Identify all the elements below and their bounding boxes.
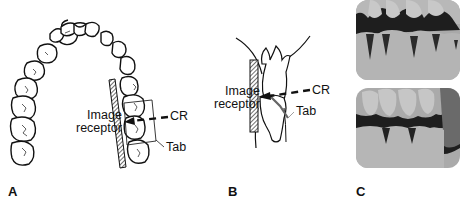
panel-a: Image receptor CR Tab A bbox=[0, 0, 200, 206]
cr-label-a: CR bbox=[170, 110, 188, 123]
panel-b: Image receptor CR Tab B bbox=[190, 0, 350, 206]
bitewing-radiograph-bottom bbox=[356, 88, 460, 168]
panel-label-b: B bbox=[228, 184, 237, 199]
dental-arch-diagram bbox=[0, 0, 200, 206]
image-receptor-label-a: Image receptor bbox=[76, 109, 122, 135]
teeth-arch bbox=[11, 20, 150, 165]
tab-label-b: Tab bbox=[296, 105, 316, 118]
panel-c: C bbox=[340, 0, 468, 206]
bitewing-radiograph-top bbox=[356, 0, 460, 80]
panel-label-c: C bbox=[356, 184, 365, 199]
tab-leader-b bbox=[288, 112, 294, 118]
tab-label-a: Tab bbox=[166, 141, 186, 154]
tab-leader-a bbox=[156, 140, 164, 147]
image-receptor-label-b: Image receptor bbox=[214, 85, 260, 111]
panel-label-a: A bbox=[8, 184, 17, 199]
lower-tooth bbox=[260, 95, 286, 142]
tissue-outline-upper-right bbox=[288, 36, 310, 58]
cr-label-b: CR bbox=[312, 84, 330, 97]
